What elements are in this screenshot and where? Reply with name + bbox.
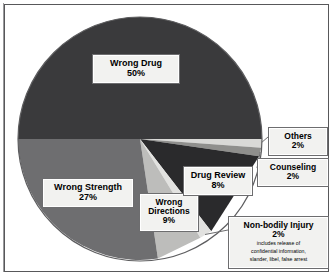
pie-label-wrong-strength-percent: 27% [43, 193, 133, 203]
pie-label-counseling: Counseling 2% [257, 158, 329, 187]
pie-label-wrong-directions: Wrong Directions 9% [139, 193, 199, 232]
pie-label-wrong-drug: Wrong Drug 50% [92, 54, 180, 84]
pie-label-non-bodily-injury: Non-bodily Injury 2% includes release of… [228, 216, 329, 269]
pie-label-non-bodily-percent: 2% [231, 230, 326, 239]
pie-label-wrong-directions-percent: 9% [140, 216, 198, 225]
pie-label-non-bodily-note-1: includes release of [231, 239, 326, 247]
pie-label-wrong-strength: Wrong Strength 27% [42, 178, 134, 208]
pie-label-non-bodily-note-2: confidential information, [231, 247, 326, 255]
pie-label-drug-review: Drug Review 8% [183, 166, 253, 196]
pie-label-non-bodily-note-3: slander, libel, false arrest [231, 255, 326, 263]
pie-label-counseling-percent: 2% [258, 172, 328, 181]
pie-label-wrong-drug-percent: 50% [93, 69, 179, 79]
pie-label-others: Others 2% [268, 127, 328, 156]
pie-label-others-percent: 2% [269, 141, 327, 150]
pie-label-drug-review-percent: 8% [184, 181, 252, 191]
